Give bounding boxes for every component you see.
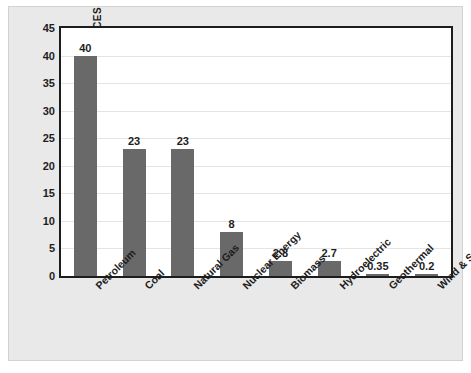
y-tick-30: 30: [11, 105, 55, 117]
bar-petroleum: [74, 56, 97, 276]
gridline-15: [61, 193, 451, 194]
bar-value-label: 8: [202, 218, 262, 230]
bar-value-label: 23: [153, 135, 213, 147]
bar-geothermal: [366, 274, 389, 276]
y-axis-tick-labels: 454035302520151050: [9, 26, 55, 278]
x-label-petroleum: Petroleum: [93, 283, 101, 291]
bar-natural-gas: [171, 149, 194, 276]
y-tick-10: 10: [11, 215, 55, 227]
y-tick-35: 35: [11, 77, 55, 89]
y-tick-5: 5: [11, 242, 55, 254]
y-tick-40: 40: [11, 50, 55, 62]
y-tick-20: 20: [11, 160, 55, 172]
gridline-30: [61, 111, 451, 112]
gridline-35: [61, 83, 451, 84]
x-label-geothermal: Geothermal: [386, 283, 394, 291]
plot-area: 40232382.82.70.350.2: [59, 26, 453, 278]
gridline-20: [61, 166, 451, 167]
gridline-40: [61, 56, 451, 57]
y-tick-15: 15: [11, 187, 55, 199]
bar-wind-solar: [415, 274, 438, 276]
x-label-wind-solar: Wind & Solar: [435, 283, 443, 291]
x-label-coal: Coal: [142, 283, 150, 291]
chart-figure: 454035302520151050 PERCENTAGE OF TOTAL E…: [8, 6, 463, 361]
y-tick-0: 0: [11, 270, 55, 282]
bar-value-label: 2.7: [299, 247, 359, 259]
x-label-hydroelectric: Hydroelectric: [337, 283, 345, 291]
y-tick-45: 45: [11, 22, 55, 34]
bar-value-label: 40: [55, 42, 115, 54]
x-label-biomass: Biomass: [288, 283, 296, 291]
x-label-nuclear-energy: Nuclear Energy: [240, 283, 248, 291]
x-label-natural-gas: Natural Gas: [191, 283, 199, 291]
y-tick-25: 25: [11, 132, 55, 144]
